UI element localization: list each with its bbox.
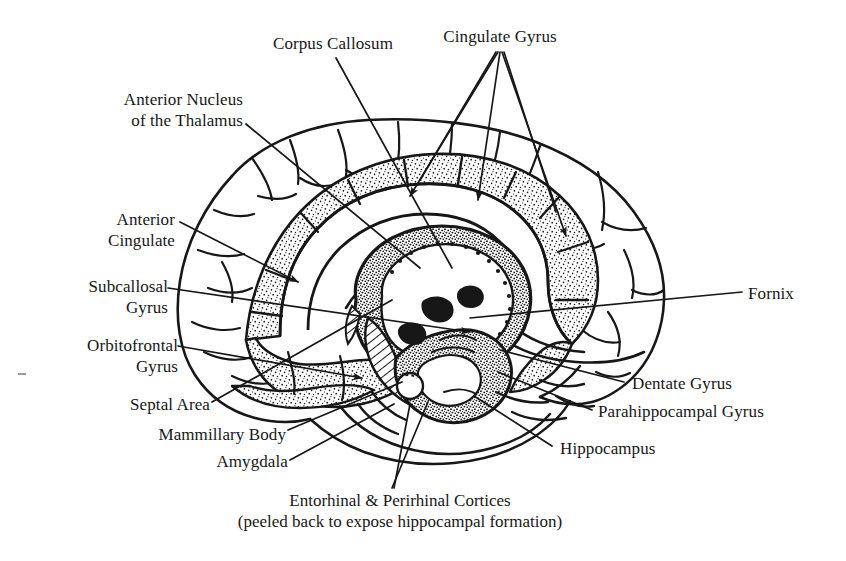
label-parahippocampal-gyrus: Parahippocampal Gyrus [598,401,764,422]
label-septal-area: Septal Area [0,394,210,415]
figure-caption: Entorhinal & Perirhinal Cortices (peeled… [140,490,660,532]
label-orbitofrontal-gyrus: Orbitofrontal Gyrus [0,335,178,377]
label-cingulate-gyrus: Cingulate Gyrus [424,26,576,47]
label-fornix: Fornix [748,283,794,304]
label-dentate-gyrus: Dentate Gyrus [632,373,732,394]
label-anterior-cingulate: Anterior Cingulate [0,209,175,251]
caption-line-1: Entorhinal & Perirhinal Cortices [289,491,510,510]
label-amygdala: Amygdala [0,451,288,472]
caption-line-2: (peeled back to expose hippocampal forma… [140,511,660,532]
label-subcallosal-gyrus: Subcallosal Gyrus [0,276,168,318]
label-corpus-callosum: Corpus Callosum [258,33,408,54]
label-anterior-nucleus-of-the-thalamus: Anterior Nucleus of the Thalamus [43,89,243,131]
mammillary-body [397,373,423,399]
label-hippocampus: Hippocampus [560,438,656,459]
label-mammillary-body: Mammillary Body [0,424,286,445]
